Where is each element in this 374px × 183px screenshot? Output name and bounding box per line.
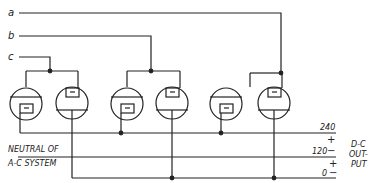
dc-output-label-line1: D-C [351,140,366,149]
minus-sign-2: − [329,167,337,178]
phase-b-wire [19,36,180,88]
dc-output-label-line3: PUT [351,160,368,169]
voltage-240: 240 [320,123,335,132]
phase-c-wire [19,57,78,88]
voltage-0: 0 [322,169,327,178]
phase-b-label: b [8,30,14,41]
tube-5 [210,88,242,135]
neutral-label-line1: NEUTRAL OF [8,145,59,154]
rectifier-diagram: a b c [0,0,374,183]
voltage-120: 120 [312,147,327,156]
minus-sign-1: − [327,145,335,156]
tube-1 [10,88,42,133]
plus-sign-1: + [327,134,335,145]
phase-a-label: a [8,7,14,18]
neutral-label-line2: A-C SYSTEM [7,159,56,168]
phase-c-label: c [8,51,14,62]
tube-3 [111,88,143,135]
dc-output-label-line2: OUT- [349,150,368,159]
